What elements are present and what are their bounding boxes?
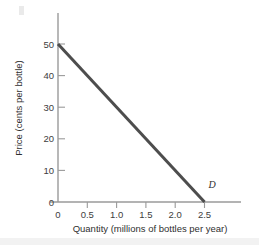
y-tick-label-0: 0: [49, 197, 54, 208]
y-tick-label-10: 10: [43, 165, 54, 176]
y-tick-label-40: 40: [43, 70, 54, 81]
x-tick-label-0-5: 0.5: [81, 209, 94, 220]
x-tick-label-0: 0: [55, 209, 60, 220]
page-edge-band: [0, 238, 259, 245]
y-axis-title: Price (cents per bottle): [13, 60, 24, 156]
x-tick-label-2-5: 2.5: [198, 209, 211, 220]
x-tick-label-1-0: 1.0: [110, 209, 123, 220]
y-tick-label-20: 20: [43, 133, 54, 144]
y-tick-label-50: 50: [43, 39, 54, 50]
x-tick-label-2-0: 2.0: [169, 209, 182, 220]
chart-canvas: 50 40 30 20 10 0 0 0.5 1.0 1.5 2.0 2.5 D…: [0, 0, 259, 245]
x-tick-label-1-5: 1.5: [139, 209, 152, 220]
y-axis-ticks: [58, 44, 65, 170]
y-tick-label-30: 30: [43, 102, 54, 113]
demand-curve-figure: 50 40 30 20 10 0 0 0.5 1.0 1.5 2.0 2.5 D…: [0, 0, 259, 245]
demand-curve: [58, 44, 205, 202]
demand-curve-label: D: [207, 179, 216, 190]
x-axis-title: Quantity (millions of bottles per year): [73, 223, 228, 234]
x-axis-ticks: [87, 202, 204, 208]
